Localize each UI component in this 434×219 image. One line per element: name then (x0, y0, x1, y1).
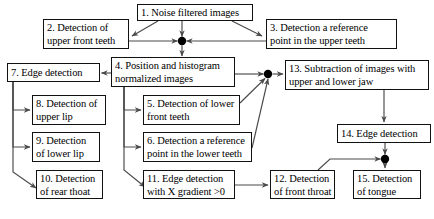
node-15-detection-tongue[interactable]: 15. Detection of tongue (353, 170, 421, 199)
node-4-position-histogram-normalized-images[interactable]: 4. Position and histogram normalized ima… (111, 57, 235, 87)
node-9-detection-lower-lip[interactable]: 9. Detection of lower lip (32, 132, 100, 162)
node-5-detection-lower-front-teeth[interactable]: 5. Detection of lower front teeth (143, 95, 240, 125)
edge-4-to-5 (124, 87, 141, 110)
junction-bottom-right (381, 155, 389, 163)
edge-4-to-6 (124, 87, 141, 147)
node-3-detection-reference-point-upper-teeth[interactable]: 3. Detection a reference point in the up… (266, 19, 397, 49)
edge-1-to-2 (132, 21, 158, 36)
flowchart-canvas: 1. Noise filtered images 2. Detection of… (0, 0, 434, 219)
node-2-detection-upper-front-teeth[interactable]: 2. Detection of upper front teeth (43, 19, 129, 49)
node-11-edge-detection-x-gradient[interactable]: 11. Edge detection with X gradient >0 (143, 170, 235, 199)
edge-6-to-junction-right (252, 79, 268, 148)
edge-7-to-9 (13, 82, 30, 147)
edge-7-to-8 (13, 82, 30, 110)
node-10-detection-rear-thoat[interactable]: 10. Detection of rear thoat (36, 170, 103, 199)
node-14-edge-detection[interactable]: 14. Edge detection (337, 124, 431, 143)
node-6-detection-reference-point-lower-teeth[interactable]: 6. Detection a reference point in the lo… (143, 132, 252, 162)
node-7-edge-detection[interactable]: 7. Edge detection (7, 63, 100, 82)
edge-4-to-11 (124, 87, 145, 187)
edge-1-to-3 (232, 21, 262, 36)
junction-top-center (178, 37, 186, 45)
edge-5-to-junction-right (240, 79, 265, 104)
node-12-detection-front-throat[interactable]: 12. Detection of front throat (270, 170, 335, 199)
node-1-noise-filtered-images[interactable]: 1. Noise filtered images (137, 4, 253, 21)
node-8-detection-upper-lip[interactable]: 8. Detection of upper lip (32, 95, 106, 125)
edge-12-to-junction-bottom (318, 159, 381, 170)
junction-right-middle (264, 70, 272, 78)
node-13-subtraction-of-images[interactable]: 13. Subtraction of images with upper and… (285, 60, 429, 90)
